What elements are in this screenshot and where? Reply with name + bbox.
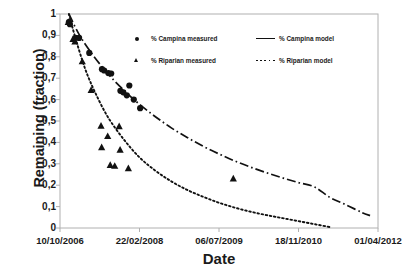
x-tick-label: 06/07/2009 bbox=[195, 235, 243, 246]
legend-label: % Campina measured bbox=[151, 35, 217, 42]
triangle-marker-icon bbox=[128, 56, 148, 65]
x-tick-label: 01/04/2012 bbox=[354, 235, 402, 246]
legend-entry-riparian-model: % Riparian model bbox=[256, 56, 333, 65]
legend-label: % Riparian measured bbox=[151, 57, 216, 64]
legend-label: % Riparian model bbox=[279, 57, 333, 64]
x-tick-label: 10/10/2006 bbox=[36, 235, 84, 246]
x-tick-label: 18/11/2010 bbox=[275, 235, 322, 246]
dotted-line-icon bbox=[256, 56, 276, 65]
legend-entry-campina-model: % Campina model bbox=[256, 34, 334, 43]
x-axis-title: Date bbox=[60, 250, 378, 267]
legend-entry-campina-measured: % Campina measured bbox=[128, 34, 217, 43]
circle-marker-icon bbox=[128, 34, 148, 43]
legend-label: % Campina model bbox=[279, 35, 334, 42]
legend-entry-riparian-measured: % Riparian measured bbox=[128, 56, 216, 65]
solid-line-icon bbox=[256, 34, 276, 43]
x-tick-label: 22/02/2008 bbox=[116, 235, 164, 246]
chart-legend: % Campina measured % Riparian measured %… bbox=[128, 34, 368, 78]
